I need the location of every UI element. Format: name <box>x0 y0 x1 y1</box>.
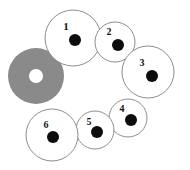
diagram-canvas: 1 2 3 4 5 6 <box>0 0 190 170</box>
node-5-dot <box>91 126 103 138</box>
gray-annulus-hole <box>29 69 43 83</box>
node-3-dot <box>146 70 158 82</box>
node-circle-3[interactable]: 3 <box>122 46 174 98</box>
node-5-label: 5 <box>87 116 92 127</box>
node-2-dot <box>112 39 124 51</box>
node-circle-4[interactable]: 4 <box>109 99 147 137</box>
node-circle-5[interactable]: 5 <box>76 111 114 149</box>
node-4-dot <box>125 114 137 126</box>
node-circle-6[interactable]: 6 <box>26 109 78 161</box>
node-3-label: 3 <box>140 57 145 68</box>
node-1-dot <box>69 34 81 46</box>
node-2-label: 2 <box>107 26 112 37</box>
node-6-label: 6 <box>44 119 49 130</box>
circle-diagram-svg: 1 2 3 4 5 6 <box>0 0 190 170</box>
node-4-label: 4 <box>120 103 125 114</box>
node-6-dot <box>47 131 59 143</box>
node-1-label: 1 <box>63 20 69 32</box>
node-circle-1[interactable]: 1 <box>45 10 101 66</box>
